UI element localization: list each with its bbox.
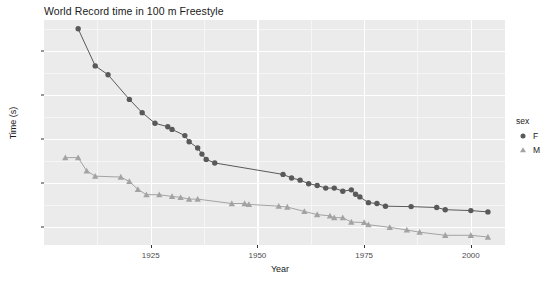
data-point [289, 175, 294, 180]
legend: sex F M [516, 116, 560, 157]
data-point [212, 160, 217, 165]
data-point [340, 188, 345, 193]
data-point [306, 181, 311, 186]
chart-title: World Record time in 100 m Freestyle [44, 5, 224, 17]
data-point [297, 177, 302, 182]
data-point [357, 194, 362, 199]
data-point [186, 139, 191, 144]
data-point [127, 97, 132, 102]
data-point [280, 172, 285, 177]
data-point [408, 204, 413, 209]
legend-item-m[interactable]: M [516, 143, 560, 157]
data-point [152, 121, 157, 126]
legend-item-f[interactable]: F [516, 129, 560, 143]
series-layer [44, 20, 505, 245]
data-point [93, 63, 98, 68]
data-point [169, 127, 174, 132]
plot-panel [44, 20, 505, 245]
data-point [374, 201, 379, 206]
y-axis-title: Time (s) [8, 63, 18, 183]
legend-title: sex [516, 116, 560, 126]
data-point [204, 157, 209, 162]
data-point [83, 168, 89, 174]
data-point [195, 145, 200, 150]
x-tick-label: 2000 [462, 251, 480, 260]
x-axis-title: Year [0, 264, 560, 274]
data-point [199, 151, 204, 156]
data-point [75, 26, 80, 31]
circle-marker-icon [516, 129, 530, 143]
series-line [78, 29, 488, 212]
data-point [323, 185, 328, 190]
data-point [443, 207, 448, 212]
y-axis-title-wrap: Time (s) [0, 0, 44, 245]
x-tick-label: 1950 [249, 251, 267, 260]
data-point [332, 185, 337, 190]
data-point [139, 110, 144, 115]
data-point [383, 203, 388, 208]
data-point [485, 209, 490, 214]
data-point [434, 205, 439, 210]
data-point [126, 178, 132, 184]
x-tick-mark [471, 245, 472, 248]
chart-container: World Record time in 100 m Freestyle 506… [0, 0, 560, 284]
x-tick-mark [151, 245, 152, 248]
legend-label-f: F [533, 131, 538, 141]
legend-label-m: M [533, 145, 540, 155]
series-f [75, 26, 490, 214]
x-tick-mark [364, 245, 365, 248]
series-line [65, 158, 488, 237]
data-point [468, 208, 473, 213]
data-point [182, 133, 187, 138]
series-m [62, 154, 491, 239]
x-tick-label: 1925 [142, 251, 160, 260]
data-point [349, 187, 354, 192]
data-point [314, 183, 319, 188]
x-tick-label: 1975 [355, 251, 373, 260]
data-point [366, 200, 371, 205]
x-tick-mark [257, 245, 258, 248]
data-point [105, 72, 110, 77]
triangle-marker-icon [516, 143, 530, 157]
